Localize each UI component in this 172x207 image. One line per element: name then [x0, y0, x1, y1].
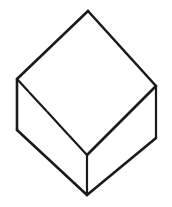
figure-canvas — [0, 0, 172, 207]
cube-line-drawing — [0, 0, 172, 207]
